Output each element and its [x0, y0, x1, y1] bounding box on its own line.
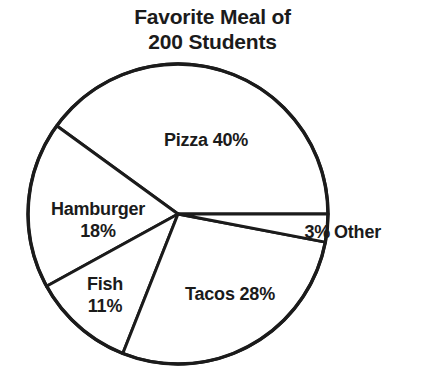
pie-chart-svg: [0, 0, 425, 391]
slice-label-other-name: Other: [334, 221, 424, 243]
slice-label-pizza: Pizza 40%: [131, 129, 281, 151]
pie-chart-figure: Favorite Meal of 200 Students Pizza 40% …: [0, 0, 425, 391]
slice-label-hamburger-percent: 18%: [23, 220, 173, 242]
slice-label-other-name-text: Other: [334, 221, 424, 243]
slice-label-tacos-text: Tacos 28%: [155, 283, 305, 305]
slice-label-other-percent: 3%: [272, 221, 330, 243]
slice-label-hamburger: Hamburger 18%: [23, 198, 173, 242]
slice-label-tacos: Tacos 28%: [155, 283, 305, 305]
slice-label-pizza-text: Pizza 40%: [131, 129, 281, 151]
slice-label-fish: Fish 11%: [55, 273, 155, 317]
slice-label-fish-name: Fish: [55, 273, 155, 295]
slice-label-fish-percent: 11%: [55, 295, 155, 317]
slice-label-other-percent-text: 3%: [272, 221, 330, 243]
slice-label-hamburger-name: Hamburger: [23, 198, 173, 220]
